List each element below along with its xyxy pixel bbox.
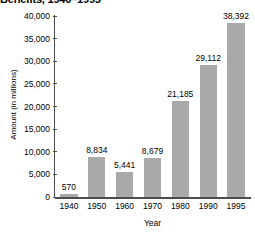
bar-column: 21,185	[172, 16, 189, 197]
bar-value-label: 8,834	[86, 145, 107, 155]
y-tick: 5,000	[0, 169, 57, 179]
bar-value-label: 5,441	[114, 160, 135, 170]
bar	[116, 172, 133, 197]
y-tick-label: 10,000	[24, 147, 50, 157]
bar-value-label: 21,185	[167, 89, 193, 99]
y-tick: 35,000	[0, 34, 57, 44]
x-tick-label: 1960	[111, 201, 139, 211]
bar-value-label: 8,679	[142, 146, 163, 156]
y-tick-label: 0	[45, 192, 50, 202]
bar	[172, 101, 189, 197]
bar	[227, 23, 244, 197]
bar	[88, 157, 105, 197]
x-tick-label: 1995	[222, 201, 250, 211]
y-tick-label: 40,000	[24, 11, 50, 21]
y-tick: 20,000	[0, 102, 57, 112]
bar-column: 570	[60, 16, 77, 197]
y-tick: 40,000	[0, 11, 57, 21]
bar-column: 8,679	[144, 16, 161, 197]
bar-column: 29,112	[200, 16, 217, 197]
x-axis-line	[55, 197, 251, 199]
y-tick-label: 30,000	[24, 56, 50, 66]
x-tick-label: 1940	[55, 201, 83, 211]
y-tick-label: 25,000	[24, 79, 50, 89]
bar-column: 5,441	[116, 16, 133, 197]
y-tick: 25,000	[0, 79, 57, 89]
y-tick-label: 15,000	[24, 124, 50, 134]
bar	[144, 158, 161, 197]
chart-title: Benefits, 1940–1995	[0, 0, 255, 5]
bar-chart-figure: Benefits, 1940–1995 Amount (in millions)…	[0, 0, 255, 234]
x-tick-label: 1990	[194, 201, 222, 211]
y-tick: 10,000	[0, 147, 57, 157]
bar-value-label: 29,112	[196, 53, 221, 63]
bar-column: 8,834	[88, 16, 105, 197]
x-tick-label: 1950	[83, 201, 111, 211]
x-tick-label: 1970	[139, 201, 167, 211]
x-axis-title: Year	[55, 218, 250, 228]
bar-value-label: 38,392	[223, 11, 249, 21]
x-tick-label: 1980	[166, 201, 194, 211]
bar	[60, 194, 77, 197]
bar-value-label: 570	[62, 182, 76, 192]
plot-area: 5708,8345,4418,67921,18529,11238,392	[55, 16, 250, 197]
y-tick-label: 35,000	[24, 34, 50, 44]
y-tick-label: 5,000	[29, 169, 50, 179]
y-tick: 30,000	[0, 56, 57, 66]
y-tick: 0	[0, 192, 57, 202]
y-tick-label: 20,000	[24, 102, 50, 112]
bar-column: 38,392	[227, 16, 244, 197]
bar	[200, 65, 217, 197]
y-tick: 15,000	[0, 124, 57, 134]
